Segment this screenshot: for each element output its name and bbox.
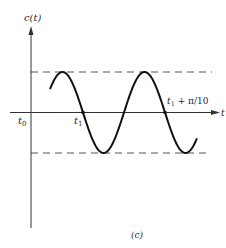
y-axis-label: c(t)	[24, 12, 42, 23]
x-axis-arrow-icon	[211, 110, 220, 115]
t1-marker	[81, 111, 85, 115]
t1-plus-pi-over-10-label: t1 + π/10	[167, 96, 209, 108]
sinusoid-diagram: c(t) t t0 t1 t1 + π/10 (c)	[0, 0, 226, 248]
x-axis-label: t	[221, 108, 225, 118]
t1-label: t1	[74, 115, 83, 128]
y-axis-arrow-icon	[29, 26, 34, 35]
figure-caption: (c)	[131, 230, 144, 240]
t1-plus-marker	[163, 111, 167, 115]
t0-label: t0	[18, 115, 27, 128]
